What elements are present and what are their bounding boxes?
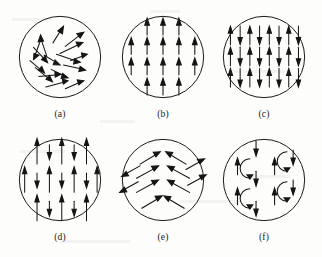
panel-a-diagram [7, 5, 113, 109]
panel-f-circle [223, 139, 304, 220]
panel-f: (f) [211, 128, 317, 232]
panel-d-caption: (d) [7, 232, 113, 242]
panel-c: (c) [211, 5, 317, 109]
panel-d: (d) [7, 128, 113, 232]
panel-b-spins [129, 18, 197, 95]
panel-d-circle [19, 139, 100, 220]
panel-c-spins [228, 26, 300, 87]
panel-b-diagram [110, 5, 216, 109]
panel-f-diagram [211, 128, 317, 232]
panel-b-caption: (b) [110, 109, 216, 119]
panel-e-circle [122, 139, 203, 220]
panel-e-caption: (e) [110, 232, 216, 242]
panel-c-circle [223, 16, 304, 97]
panel-b: (b) [110, 5, 216, 109]
panel-c-diagram [211, 5, 317, 109]
panel-e-diagram [110, 128, 216, 232]
magnetic-ordering-figure: (a) (b) [0, 0, 322, 257]
panel-f-spins [235, 141, 295, 216]
panel-c-caption: (c) [211, 109, 317, 119]
panel-f-caption: (f) [211, 232, 317, 242]
panel-f-helical-arcs [240, 152, 287, 209]
panel-e: (e) [110, 128, 216, 232]
panel-e-spins [120, 152, 207, 209]
panel-a-caption: (a) [7, 109, 113, 119]
panel-d-diagram [7, 128, 113, 232]
panel-a: (a) [7, 5, 113, 109]
panel-f-arc-heads [246, 167, 291, 210]
panel-a-spins [30, 26, 87, 89]
